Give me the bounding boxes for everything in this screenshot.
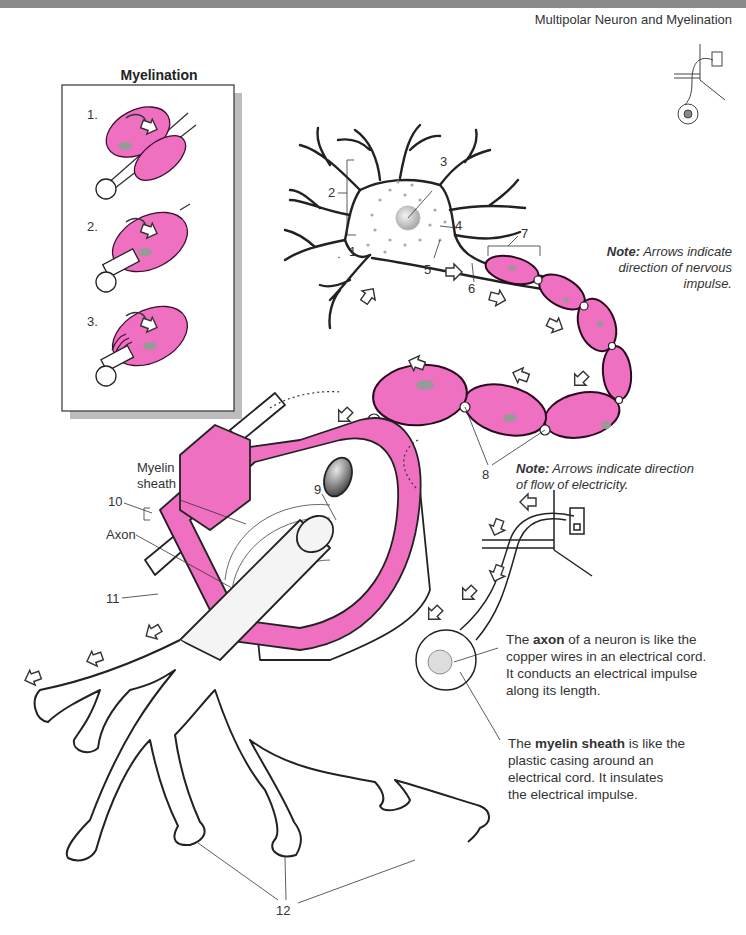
label-4: 4	[455, 218, 462, 233]
label-8: 8	[482, 467, 489, 482]
impulse-arrow	[446, 264, 462, 280]
label-5: 5	[424, 262, 431, 277]
step-label-1: 1.	[87, 107, 98, 122]
label-9: 9	[314, 482, 321, 497]
impulse-arrow	[84, 648, 105, 669]
label-6: 6	[468, 281, 475, 296]
myelin-explanation: The myelin sheath is like the plastic ca…	[508, 735, 685, 803]
note-nervous-impulse: Note: Arrows indicate direction of nervo…	[572, 244, 732, 292]
label-7: 7	[521, 226, 528, 241]
impulse-arrow	[142, 621, 164, 643]
impulse-arrow	[22, 667, 43, 688]
label-10: 10	[108, 494, 122, 509]
label-2: 2	[328, 185, 335, 200]
note-electricity: Note: Arrows indicate direction of flow …	[516, 461, 694, 493]
step-label-2: 2.	[87, 219, 98, 234]
axon-cutaway	[145, 393, 430, 660]
axon-label: Axon	[106, 527, 136, 542]
step-label-3: 3.	[87, 314, 98, 329]
electricity-arrow	[487, 517, 508, 538]
neuron-soma	[285, 125, 550, 328]
impulse-arrow	[357, 284, 379, 306]
myelination-title: Myelination	[84, 67, 234, 83]
electricity-arrow	[457, 582, 480, 605]
label-12: 12	[276, 903, 290, 918]
electricity-arrow	[423, 602, 446, 625]
axon-explanation: The axon of a neuron is like the copper …	[506, 631, 706, 699]
impulse-arrow	[488, 288, 508, 308]
electricity-arrow	[487, 563, 508, 584]
outlet-icon	[674, 44, 725, 124]
myelin-sheath-label: Myelin sheath	[137, 460, 176, 492]
electricity-arrow	[520, 494, 536, 510]
label-1: 1	[349, 244, 356, 259]
label-3: 3	[440, 154, 447, 169]
label-11: 11	[106, 591, 120, 606]
impulse-arrow	[545, 315, 566, 336]
impulse-arrow	[569, 368, 592, 391]
impulse-arrow	[510, 365, 531, 386]
